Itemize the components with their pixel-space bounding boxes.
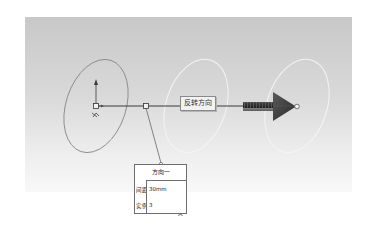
callout-value-panel: 30mm 3: [146, 180, 186, 213]
spacing-handle[interactable]: [144, 104, 149, 109]
direction-drag-arrow[interactable]: [243, 92, 299, 121]
callout-title: 方向一: [135, 167, 186, 176]
spacing-value-field[interactable]: 30mm: [149, 186, 167, 192]
expand-caret-icon[interactable]: ^: [177, 213, 184, 222]
reverse-direction-button[interactable]: 反转方向: [180, 96, 216, 111]
origin-handle[interactable]: [94, 104, 99, 109]
instances-value-field[interactable]: 3: [149, 202, 153, 208]
callout-leader-line: [146, 108, 161, 163]
arrow-end-handle[interactable]: [295, 104, 300, 109]
origin-triad-icon: [92, 79, 99, 117]
direction-one-callout: 方向一 间距: 实例: 30mm 3: [134, 164, 187, 214]
